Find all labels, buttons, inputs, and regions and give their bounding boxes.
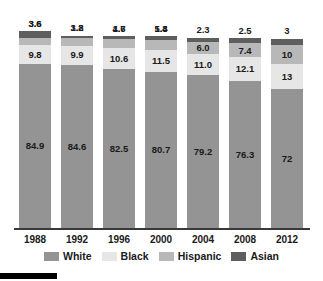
- bar-segment-white[interactable]: 82.5: [103, 69, 135, 228]
- bar-segment-black[interactable]: 9.8: [19, 45, 51, 64]
- x-axis-line: [14, 228, 310, 230]
- bar-segment-white[interactable]: 76.3: [229, 81, 261, 228]
- segment-value-label: 9.8: [28, 50, 41, 60]
- bar-segment-asian[interactable]: [19, 31, 51, 38]
- legend-item-white[interactable]: White: [44, 251, 92, 262]
- bar-group: 2.36.011.079.2: [187, 0, 219, 228]
- segment-value-label: 12.1: [236, 64, 255, 74]
- bar-stack[interactable]: 9.984.6: [61, 36, 93, 228]
- segment-value-label: 80.7: [152, 145, 171, 155]
- bar-group: 2.57.412.176.3: [229, 0, 261, 228]
- bar-segment-black[interactable]: 10.6: [103, 48, 135, 68]
- segment-value-label: 13: [282, 72, 293, 82]
- segment-value-label: 72: [282, 154, 293, 164]
- x-tick-label-2004: 2004: [183, 233, 223, 247]
- segment-value-label-above: 4.7: [103, 24, 135, 34]
- x-tick-label-2008: 2008: [225, 233, 265, 247]
- bar-segment-hispanic[interactable]: 7.4: [229, 43, 261, 57]
- bar-segment-hispanic[interactable]: [61, 38, 93, 45]
- bar-segment-hispanic[interactable]: 6.0: [187, 42, 219, 54]
- bar-stack[interactable]: 10.682.5: [103, 36, 135, 228]
- bar-segment-hispanic[interactable]: [103, 39, 135, 48]
- segment-value-label: 76.3: [236, 150, 255, 160]
- bar-segment-hispanic[interactable]: [19, 38, 51, 45]
- bar-segment-black[interactable]: 12.1: [229, 57, 261, 80]
- segment-value-label-above: 3.8: [61, 23, 93, 33]
- segment-value-label: 82.5: [110, 144, 129, 154]
- segment-value-label-above: 3: [271, 26, 303, 36]
- bar-group: 3.63.69.884.9: [19, 0, 51, 228]
- legend-swatch-asian: [231, 252, 246, 261]
- x-tick-label-1992: 1992: [57, 233, 97, 247]
- bar-stack[interactable]: 9.884.9: [19, 31, 51, 228]
- bar-stack[interactable]: 101372: [271, 39, 303, 228]
- x-tick-label-2000: 2000: [141, 233, 181, 247]
- chart-container: 3.63.69.884.91.23.89.984.61.64.710.682.5…: [0, 0, 323, 281]
- legend-label: Hispanic: [178, 251, 222, 262]
- bar-segment-hispanic[interactable]: [145, 40, 177, 50]
- segment-value-label: 84.9: [26, 141, 45, 151]
- x-tick-label-2012: 2012: [267, 233, 307, 247]
- segment-value-label: 11.5: [152, 56, 170, 66]
- bar-group: 1.23.89.984.6: [61, 0, 93, 228]
- segment-value-label: 79.2: [194, 147, 213, 157]
- plot-area: 3.63.69.884.91.23.89.984.61.64.710.682.5…: [14, 0, 309, 228]
- footer-mark: [0, 273, 57, 279]
- segment-value-label-above: 2.5: [229, 26, 261, 36]
- legend-item-black[interactable]: Black: [102, 251, 149, 262]
- bar-stack[interactable]: 6.011.079.2: [187, 38, 219, 228]
- segment-value-label: 84.6: [68, 142, 87, 152]
- bar-segment-white[interactable]: 79.2: [187, 75, 219, 228]
- legend-swatch-white: [44, 252, 59, 261]
- legend-label: Black: [121, 251, 149, 262]
- bar-segment-black[interactable]: 9.9: [61, 46, 93, 65]
- legend-swatch-black: [102, 252, 117, 261]
- legend-label: Asian: [250, 251, 279, 262]
- bar-segment-hispanic[interactable]: 10: [271, 45, 303, 64]
- x-axis-tick-labels: 1988199219962000200420082012: [14, 233, 309, 249]
- bar-group: 1.64.710.682.5: [103, 0, 135, 228]
- segment-value-label: 6.0: [196, 43, 209, 53]
- bar-segment-white[interactable]: 84.9: [19, 64, 51, 228]
- bar-stack[interactable]: 7.412.176.3: [229, 38, 261, 228]
- x-tick-label-1996: 1996: [99, 233, 139, 247]
- segment-value-label: 7.4: [238, 46, 251, 56]
- chart-legend: WhiteBlackHispanicAsian: [0, 251, 323, 262]
- bar-group: 3101372: [271, 0, 303, 228]
- segment-value-label: 11.0: [194, 60, 212, 70]
- bar-segment-white[interactable]: 84.6: [61, 65, 93, 228]
- bar-segment-white[interactable]: 72: [271, 89, 303, 228]
- bar-segment-white[interactable]: 80.7: [145, 72, 177, 228]
- legend-item-asian[interactable]: Asian: [231, 251, 279, 262]
- bar-group: 1.85.411.580.7: [145, 0, 177, 228]
- segment-value-label: 10: [282, 50, 293, 60]
- bar-segment-black[interactable]: 11.0: [187, 54, 219, 75]
- legend-label: White: [63, 251, 92, 262]
- segment-value-label-above: 3.6: [19, 19, 51, 29]
- bar-stack[interactable]: 11.580.7: [145, 36, 177, 228]
- segment-value-label: 10.6: [110, 54, 129, 64]
- bar-segment-black[interactable]: 13: [271, 64, 303, 89]
- segment-value-label-above: 2.3: [187, 25, 219, 35]
- segment-value-label: 9.9: [70, 50, 83, 60]
- segment-value-label-above: 5.4: [145, 24, 177, 34]
- legend-item-hispanic[interactable]: Hispanic: [159, 251, 222, 262]
- x-tick-label-1988: 1988: [15, 233, 55, 247]
- bar-segment-black[interactable]: 11.5: [145, 50, 177, 72]
- legend-swatch-hispanic: [159, 252, 174, 261]
